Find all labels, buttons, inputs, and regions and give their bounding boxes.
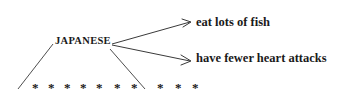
asterisk-mark: * xyxy=(192,81,199,95)
asterisk-mark: * xyxy=(64,81,71,95)
arrow-shaft-lower-icon xyxy=(112,45,190,61)
asterisk-row: ********** xyxy=(0,81,364,97)
outcome-label-have-fewer-heart-attacks: have fewer heart attacks xyxy=(196,52,327,65)
subject-label: JAPANESE xyxy=(55,36,111,47)
asterisk-mark: * xyxy=(80,81,87,95)
asterisk-mark: * xyxy=(114,81,121,95)
outcome-label-eat-lots-of-fish: eat lots of fish xyxy=(196,16,270,29)
asterisk-mark: * xyxy=(32,81,39,95)
asterisk-mark: * xyxy=(175,81,182,95)
asterisk-mark: * xyxy=(157,81,164,95)
asterisk-mark: * xyxy=(48,81,55,95)
asterisk-mark: * xyxy=(96,81,103,95)
asterisk-mark: * xyxy=(131,81,138,95)
arrow-shaft-upper-icon xyxy=(112,22,190,44)
diagram-canvas: JAPANESE eat lots of fish have fewer hea… xyxy=(0,0,364,101)
